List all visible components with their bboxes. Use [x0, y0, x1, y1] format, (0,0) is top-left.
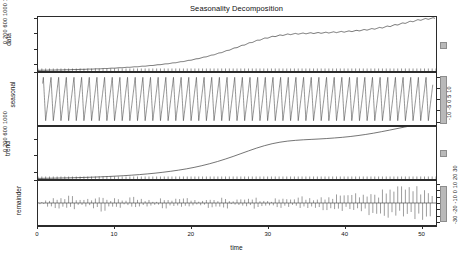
- trend-series-plot: [38, 127, 436, 179]
- y-tick: [437, 122, 440, 123]
- y-tick: [437, 190, 440, 191]
- y-tick: [437, 222, 440, 223]
- y-tick: [34, 172, 37, 173]
- x-tick: [114, 226, 115, 229]
- x-axis-line: [37, 226, 437, 227]
- axis-label-remainder: remainder: [15, 177, 22, 225]
- scale-bar-seasonal: [440, 76, 447, 124]
- y-tick: [34, 33, 37, 34]
- x-tick: [37, 226, 38, 229]
- y-tick: [437, 203, 440, 204]
- y-ticklabels-trend: 0 200 600 1000: [2, 111, 8, 152]
- y-tick: [34, 180, 37, 181]
- x-tick: [268, 226, 269, 229]
- x-tick: [345, 226, 346, 229]
- y-tick: [437, 184, 440, 185]
- y-tick: [437, 197, 440, 198]
- x-axis-title: time: [0, 244, 473, 251]
- axis-label-seasonal: seasonal: [9, 73, 16, 117]
- panel-data: [37, 16, 437, 72]
- scale-bar-remainder: [440, 186, 447, 222]
- y-tick: [34, 139, 37, 140]
- x-tick-label: 20: [187, 231, 194, 237]
- scale-bar-trend: [440, 150, 447, 157]
- x-tick-label: 30: [264, 231, 271, 237]
- x-tick-label: 0: [35, 231, 38, 237]
- y-tick: [437, 209, 440, 210]
- y-tick: [34, 64, 37, 65]
- x-tick-label: 40: [341, 231, 348, 237]
- y-tick: [34, 18, 37, 19]
- seasonality-decomposition-figure: Seasonality Decomposition data 0 200 600…: [0, 0, 473, 261]
- panel-remainder: [37, 180, 437, 226]
- panel-seasonal: [37, 72, 437, 126]
- panel-trend: [37, 126, 437, 180]
- y-ticklabels-remainder: -30 -20 -10 0 10 20 30: [452, 165, 458, 224]
- y-tick: [437, 99, 440, 100]
- remainder-series-plot: [38, 181, 436, 225]
- seasonal-series-plot: [38, 73, 436, 125]
- y-tick: [437, 88, 440, 89]
- y-ticklabels-data: 0 200 600 1000 1400: [2, 0, 8, 44]
- x-tick-label: 50: [418, 231, 425, 237]
- x-tick: [422, 226, 423, 229]
- y-tick: [437, 110, 440, 111]
- y-tick: [34, 155, 37, 156]
- y-tick: [34, 49, 37, 50]
- x-tick: [191, 226, 192, 229]
- y-tick: [34, 72, 37, 73]
- chart-title: Seasonality Decomposition: [0, 4, 473, 13]
- data-series-plot: [38, 17, 436, 71]
- x-tick-label: 10: [111, 231, 118, 237]
- scale-bar-data: [440, 42, 447, 49]
- y-tick: [437, 216, 440, 217]
- y-tick: [437, 77, 440, 78]
